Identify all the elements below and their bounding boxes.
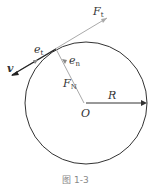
label-en: en <box>69 55 80 68</box>
label-r: R <box>108 90 116 101</box>
label-v: v <box>7 63 13 74</box>
diagram: Ft et en FN v O R 图 1-3 <box>0 0 151 188</box>
diagram-svg <box>0 0 151 188</box>
label-et: et <box>34 44 43 57</box>
label-o: O <box>81 108 90 119</box>
radius-arrowhead-icon <box>141 100 147 106</box>
label-ft: Ft <box>93 6 103 19</box>
label-fn: FN <box>63 78 77 91</box>
figure-caption: 图 1-3 <box>0 173 151 186</box>
